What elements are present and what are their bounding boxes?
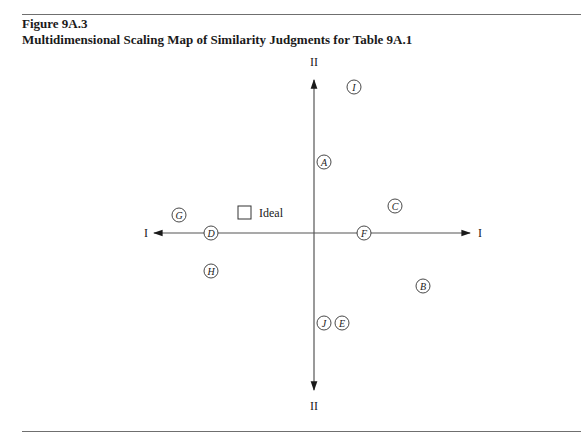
point-label: H	[206, 266, 215, 277]
point-label: I	[351, 82, 356, 93]
bottom-rule	[22, 431, 581, 432]
point-h: H	[204, 264, 218, 278]
axis-label-right: I	[478, 226, 482, 240]
axis-label-left: I	[144, 226, 148, 240]
point-i: I	[347, 80, 361, 94]
points-layer: IACGDFHBJE	[172, 80, 430, 330]
point-b: B	[416, 279, 430, 293]
point-f: F	[357, 226, 371, 240]
point-label: F	[360, 228, 368, 239]
point-label: D	[206, 228, 215, 239]
point-g: G	[172, 208, 186, 222]
point-e: E	[335, 316, 349, 330]
ideal-point-square	[238, 206, 251, 219]
point-a: A	[317, 155, 331, 169]
point-label: A	[320, 157, 328, 168]
mds-map: I I II II Ideal IACGDFHBJE	[0, 0, 581, 436]
point-label: E	[338, 318, 345, 329]
point-c: C	[388, 199, 402, 213]
point-label: C	[392, 201, 399, 212]
ideal-point-label: Ideal	[259, 206, 284, 220]
axis-label-bottom: II	[310, 399, 318, 413]
point-label: B	[420, 281, 426, 292]
point-label: J	[322, 318, 327, 329]
point-d: D	[204, 226, 218, 240]
point-label: G	[175, 210, 182, 221]
point-j: J	[317, 316, 331, 330]
axis-label-top: II	[310, 55, 318, 69]
